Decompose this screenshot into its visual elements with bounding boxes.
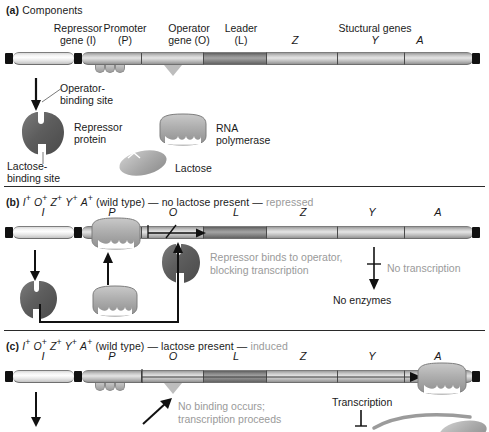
label-operator-binding-site: Operator- binding site <box>60 82 113 106</box>
transcription-down-tick-icon <box>352 410 372 430</box>
panel-c-label: (c) <box>6 340 19 352</box>
lactose-icon <box>118 148 170 178</box>
promoter-bump <box>95 383 105 391</box>
arrow-down-icon <box>28 250 50 282</box>
label-line2: transcription proceeds <box>178 413 281 426</box>
segment-gene-y <box>338 226 405 239</box>
label-no-binding: No binding occurs; transcription proceed… <box>178 400 281 426</box>
promoter-binding-bumps <box>95 383 125 391</box>
gene-label-i: I <box>23 350 63 362</box>
segment-promoter <box>82 370 142 383</box>
label-line2: protein <box>74 133 122 145</box>
transcription-arrow-icon <box>140 368 430 384</box>
segment-repressor-gene <box>13 226 74 239</box>
label-line1: Repressor binds to operator, <box>210 251 343 264</box>
genotype-a: A <box>81 196 88 208</box>
panel-a-title-text: Components <box>22 4 83 16</box>
label-line1: Operator- <box>60 82 113 94</box>
label-line1: Repressor <box>74 121 122 133</box>
segment-promoter <box>82 52 142 65</box>
repressor-protein-icon <box>160 244 206 286</box>
dna-end-cap-left <box>5 227 13 238</box>
gene-label-p: P <box>92 350 132 362</box>
segment-operator <box>142 52 204 65</box>
segment-gene-a <box>405 52 473 65</box>
panel-divider-a-b <box>4 186 485 187</box>
operator-binding-triangle <box>164 383 182 394</box>
header-leader: Leader (L) <box>205 22 277 46</box>
dna-end-cap-right <box>472 53 480 64</box>
panel-a-title: (a) Components <box>6 4 83 16</box>
dna-bar-b <box>0 226 489 239</box>
label-no-enzymes: No enzymes <box>333 294 391 306</box>
gene-label-i: I <box>23 206 63 218</box>
header-gene-a: A <box>400 34 440 46</box>
gene-label-l: L <box>216 206 256 218</box>
dna-end-cap-left <box>5 371 13 382</box>
gene-label-p: P <box>92 206 132 218</box>
label-lactose-binding-site: Lactose- binding site <box>7 160 60 184</box>
rna-polymerase-icon <box>88 218 146 251</box>
panel-a-label: (a) <box>6 4 19 16</box>
label-line2: polymerase <box>216 134 270 146</box>
lactose-icon <box>438 416 488 432</box>
segment-repressor-gene <box>13 370 74 383</box>
label-transcription: Transcription <box>332 396 392 408</box>
promoter-bump <box>115 65 125 73</box>
no-binding-pointer-arrow-icon <box>140 398 174 426</box>
panel-divider-b-c <box>4 330 485 331</box>
header-line1: Leader <box>205 22 277 34</box>
segment-gene-z <box>267 226 338 239</box>
dna-cap-mid <box>74 53 82 64</box>
label-line1: Lactose- <box>7 160 60 172</box>
label-line1: No binding occurs; <box>178 400 281 413</box>
arrow-up-icon <box>100 252 122 286</box>
segment-gene-a <box>405 226 473 239</box>
blocked-arrow-down-icon <box>365 247 387 291</box>
operator-binding-triangle <box>164 65 182 76</box>
segment-leader <box>204 52 267 65</box>
label-line1: RNA <box>216 122 270 134</box>
promoter-binding-bumps <box>95 65 125 73</box>
segment-gene-z <box>267 52 338 65</box>
dna-end-cap-right <box>472 371 480 382</box>
gene-label-a: A <box>418 206 458 218</box>
gene-label-z: Z <box>283 206 323 218</box>
segment-leader <box>204 226 267 239</box>
promoter-bump <box>95 65 105 73</box>
operator-binding-site-leader-line <box>40 88 64 104</box>
promoter-bump <box>105 383 115 391</box>
label-lactose: Lactose <box>175 162 212 174</box>
header-line1: Stuctural genes <box>310 22 440 34</box>
dna-end-cap-left <box>5 53 13 64</box>
dna-cap-mid <box>74 371 82 382</box>
segment-repressor-gene <box>13 52 74 65</box>
gene-label-y: Y <box>352 350 392 362</box>
label-line2: binding site <box>7 172 60 184</box>
rna-polymerase-icon <box>414 363 472 396</box>
promoter-bump <box>115 383 125 391</box>
promoter-bump <box>105 65 115 73</box>
repressor-to-operator-connector <box>38 300 186 328</box>
gene-label-a: A <box>418 350 458 362</box>
gene-label-o: O <box>153 206 193 218</box>
header-line2: (L) <box>205 34 277 46</box>
header-gene-z: Z <box>275 34 315 46</box>
gene-label-l: L <box>216 350 256 362</box>
dna-bar-a <box>0 52 489 65</box>
dna-cap-mid <box>74 227 82 238</box>
gene-label-z: Z <box>283 350 323 362</box>
rna-polymerase-icon <box>156 114 212 147</box>
gene-label-y: Y <box>352 206 392 218</box>
gene-label-o: O <box>153 350 193 362</box>
panel-b-label: (b) <box>6 196 20 208</box>
segment-gene-y <box>338 52 405 65</box>
dna-end-cap-right <box>472 227 480 238</box>
label-no-transcription: No transcription <box>387 262 461 274</box>
blocked-arrow-icon <box>146 224 208 242</box>
label-line2: binding site <box>60 94 113 106</box>
label-repressor-binds: Repressor binds to operator, blocking tr… <box>210 251 343 277</box>
genotype-y: Y <box>65 340 72 352</box>
label-repressor-protein: Repressor protein <box>74 121 122 145</box>
label-rna-polymerase: RNA polymerase <box>216 122 270 146</box>
